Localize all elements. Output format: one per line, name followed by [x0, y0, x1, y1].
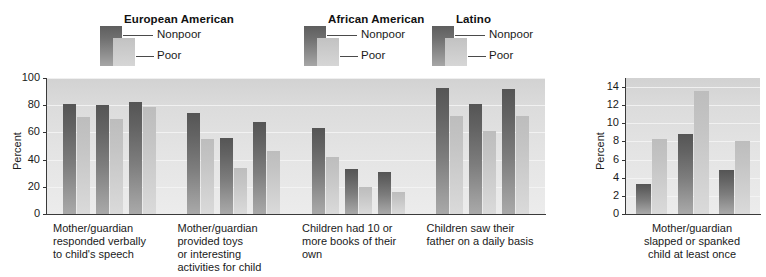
secondary-bar-chart: Percent02468101214Mother/guardian slappe…	[0, 0, 766, 277]
y-tick-label: 6	[586, 153, 619, 165]
y-tick-label: 8	[586, 134, 619, 146]
bar-poor	[652, 139, 667, 214]
bar-nonpoor	[719, 170, 734, 214]
y-axis-line	[625, 78, 626, 215]
bar-poor	[694, 91, 709, 214]
y-tick-label: 0	[586, 207, 619, 219]
bar-poor	[735, 141, 750, 214]
bar-nonpoor	[636, 184, 651, 214]
x-axis-category-label: Mother/guardian slapped or spanked child…	[628, 222, 756, 261]
plot-area	[626, 78, 760, 214]
gridline	[626, 87, 760, 88]
y-tick-label: 10	[586, 116, 619, 128]
y-tick-label: 4	[586, 171, 619, 183]
bar-nonpoor	[678, 134, 693, 214]
x-axis-line	[625, 214, 761, 215]
figure-root: European AmericanNonpoorPoorAfrican Amer…	[0, 0, 766, 277]
y-tick-label: 2	[586, 189, 619, 201]
y-tick-label: 14	[586, 80, 619, 92]
y-tick-label: 12	[586, 98, 619, 110]
